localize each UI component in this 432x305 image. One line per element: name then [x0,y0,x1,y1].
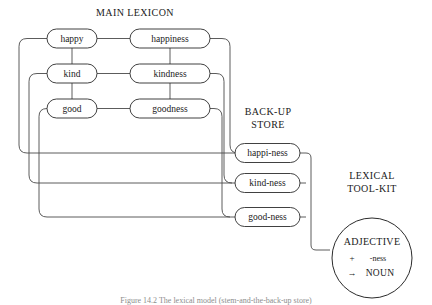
rule-plus-sign: + [349,253,354,263]
node-good[interactable]: good [47,99,97,118]
edge-backup-happiness-to-toolkit [300,153,330,250]
node-goodness-label: goodness [152,104,188,114]
lexicon-diagram: MAIN LEXICON happy kind good happiness [0,0,432,305]
lexical-toolkit-title-line2: TOOL-KIT [347,183,397,194]
rule-input-label: ADJECTIVE [344,236,401,247]
diagram-canvas: MAIN LEXICON happy kind good happiness [0,0,432,305]
node-goodness[interactable]: goodness [130,99,210,118]
lexical-toolkit-rule[interactable]: ADJECTIVE + -ness → NOUN [332,218,412,298]
node-kind[interactable]: kind [47,64,97,83]
rule-affix-label: -ness [370,254,386,263]
rule-arrow-icon: → [348,268,357,278]
backup-store-title-line1: BACK-UP [245,106,292,117]
backup-store-title-line2: STORE [251,119,285,130]
lexical-toolkit-title: LEXICAL TOOL-KIT [347,170,397,194]
edge-happy-to-happiness-backup [19,39,235,154]
node-good-ness-label: good-ness [248,212,287,222]
main-lexicon-adjectives: happy kind good [47,29,97,118]
edge-good-to-goodness-backup [39,109,235,218]
node-happiness[interactable]: happiness [130,29,210,48]
node-kind-ness[interactable]: kind-ness [235,174,300,193]
node-kindness-label: kindness [153,69,187,79]
node-happi-ness-label: happi-ness [247,148,288,158]
rule-output-label: NOUN [366,268,395,278]
lexical-toolkit-title-line1: LEXICAL [349,170,395,181]
node-kind-ness-label: kind-ness [249,178,286,188]
node-good-ness[interactable]: good-ness [235,208,300,227]
main-lexicon-nouns: happiness kindness goodness [130,29,210,118]
edge-goodness-to-backup [210,109,230,218]
node-kindness[interactable]: kindness [130,64,210,83]
node-happy[interactable]: happy [47,29,97,48]
edge-kindness-to-backup [210,74,232,184]
node-happi-ness[interactable]: happi-ness [235,144,300,163]
figure-caption: Figure 14.2 The lexical model (stem-and-… [0,296,432,305]
node-happiness-label: happiness [151,34,189,44]
node-happy-label: happy [60,34,83,44]
main-lexicon-title: MAIN LEXICON [96,7,174,18]
edge-kind-to-kindness-backup [29,74,235,184]
backup-store-items: happi-ness kind-ness good-ness [235,144,300,227]
node-good-label: good [63,104,82,114]
backup-store-title: BACK-UP STORE [245,106,292,130]
node-kind-label: kind [64,69,81,79]
